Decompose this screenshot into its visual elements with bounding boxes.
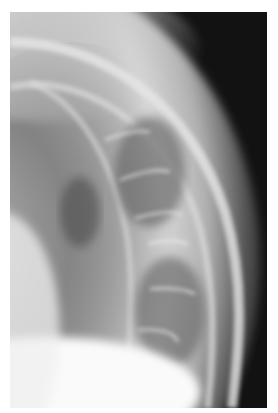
xray-image (10, 12, 267, 408)
xray-graphic (10, 12, 267, 408)
